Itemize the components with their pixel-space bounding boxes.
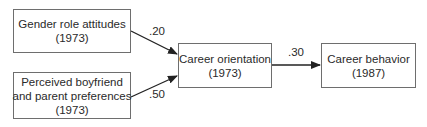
node-year: (1973) — [55, 31, 88, 45]
coefficient-orientation-behavior: .30 — [288, 46, 304, 58]
node-career-behavior: Career behavior (1987) — [321, 43, 416, 88]
node-label: Gender role attitudes — [18, 17, 125, 31]
node-year: (1973) — [208, 66, 241, 80]
node-label-line1: Perceived boyfriend — [21, 75, 123, 89]
node-label-line2: and parent preferences — [13, 89, 132, 103]
coefficient-prefs-orientation: .50 — [149, 88, 165, 100]
coefficient-gender-orientation: .20 — [149, 25, 165, 37]
node-gender-role-attitudes: Gender role attitudes (1973) — [13, 9, 131, 53]
node-label: Career behavior — [327, 52, 409, 66]
node-perceived-preferences: Perceived boyfriend and parent preferenc… — [13, 72, 131, 119]
node-label: Career orientation — [179, 52, 271, 66]
node-year: (1987) — [352, 66, 385, 80]
node-career-orientation: Career orientation (1973) — [178, 43, 272, 88]
node-year: (1973) — [55, 103, 88, 117]
